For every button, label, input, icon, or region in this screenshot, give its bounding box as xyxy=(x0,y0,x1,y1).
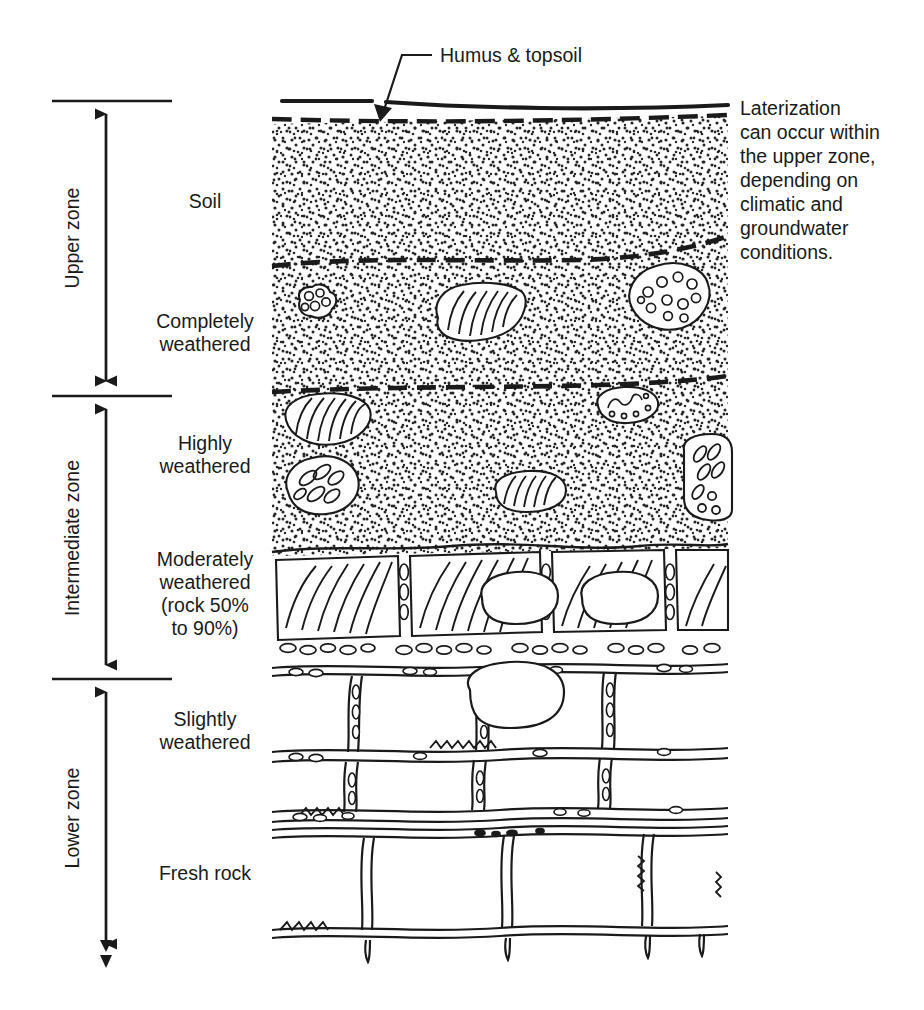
layer-label-slightly-weathered: Slightly weathered xyxy=(135,708,275,754)
weathering-profile-figure: Humus & topsoil Laterization can occur w… xyxy=(0,0,924,1010)
moderately-weathered-blocks xyxy=(272,544,728,654)
zone-label-upper-zone: Upper zone xyxy=(61,163,84,313)
figure-caption xyxy=(130,996,920,1010)
layer-label-moderately-weathered: Moderately weathered (rock 50% to 90%) xyxy=(130,548,280,640)
layer-label-soil: Soil xyxy=(135,190,275,213)
arrow-bottom-tip xyxy=(100,955,112,968)
slightly-weathered-blocks xyxy=(272,662,728,822)
zone-label-intermediate-zone: Intermediate zone xyxy=(61,423,84,653)
layer-label-fresh-rock: Fresh rock xyxy=(135,862,275,885)
layer-label-completely-weathered: Completely weathered xyxy=(135,310,275,356)
humus-topsoil-callout-label: Humus & topsoil xyxy=(440,44,582,67)
ground-surface-line xyxy=(282,101,728,108)
zone-arrows xyxy=(100,114,112,968)
arrow-bottom-extra xyxy=(100,940,112,952)
laterization-note: Laterization can occur within the upper … xyxy=(740,96,920,264)
humus-callout-leader xyxy=(374,55,432,122)
zone-label-lower-zone: Lower zone xyxy=(61,738,84,898)
fresh-rock-blocks xyxy=(272,826,728,962)
layer-label-highly-weathered: Highly weathered xyxy=(135,432,275,478)
